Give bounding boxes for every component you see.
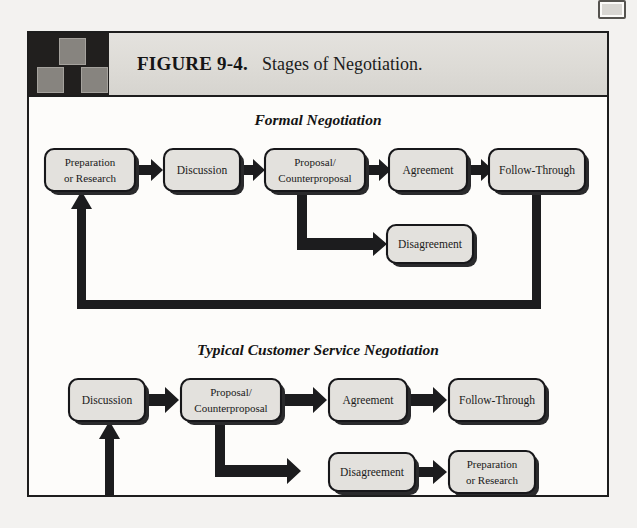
node-label: Disagreement bbox=[340, 466, 405, 479]
arrow-discussion-to-proposal bbox=[243, 159, 265, 181]
logo-square-right bbox=[81, 67, 108, 93]
arrow-prep-to-discussion bbox=[139, 159, 163, 181]
arrow-agreement-to-followthrough-2 bbox=[411, 387, 447, 413]
node-label: Proposal/ bbox=[210, 386, 253, 398]
node-label: Proposal/ bbox=[294, 156, 337, 168]
negotiation-flowchart: Formal Negotiation bbox=[29, 97, 607, 495]
section-formal-negotiation: Formal Negotiation bbox=[45, 111, 589, 313]
arrow-proposal-to-agreement bbox=[369, 159, 391, 181]
figure-header: FIGURE 9-4. Stages of Negotiation. bbox=[29, 33, 607, 97]
three-squares-logo bbox=[29, 33, 109, 95]
node-label: Counterproposal bbox=[194, 402, 267, 414]
section-title-typical: Typical Customer Service Negotiation bbox=[197, 341, 439, 358]
figure-body: Formal Negotiation bbox=[29, 97, 607, 495]
logo-square-top bbox=[59, 38, 86, 65]
logo-square-left bbox=[37, 67, 64, 93]
node-discussion-formal: Discussion bbox=[164, 149, 244, 195]
node-agreement-formal: Agreement bbox=[389, 149, 471, 195]
node-agreement-typical: Agreement bbox=[329, 379, 411, 425]
node-label: Agreement bbox=[342, 394, 394, 407]
node-label: Agreement bbox=[402, 164, 454, 177]
scanned-page: FIGURE 9-4. Stages of Negotiation. Forma… bbox=[0, 0, 637, 528]
arrow-disagreement-to-preparation bbox=[419, 460, 447, 484]
node-label: or Research bbox=[466, 474, 519, 486]
section-typical-customer-service-negotiation: Typical Customer Service Negotiation bbox=[69, 341, 549, 495]
node-proposal-counterproposal-formal: Proposal/ Counterproposal bbox=[265, 149, 369, 195]
node-follow-through-typical: Follow-Through bbox=[449, 379, 549, 425]
node-discussion-typical: Discussion bbox=[69, 379, 149, 425]
figure-number-label: FIGURE 9-4. bbox=[137, 53, 248, 75]
section-title-formal: Formal Negotiation bbox=[253, 111, 381, 128]
node-label: Discussion bbox=[177, 164, 228, 176]
scan-artifact-icon bbox=[598, 0, 626, 19]
node-label: Follow-Through bbox=[499, 164, 575, 177]
node-label: Follow-Through bbox=[459, 394, 535, 407]
node-label: Discussion bbox=[82, 394, 133, 406]
figure-caption: Stages of Negotiation. bbox=[262, 54, 422, 75]
arrow-proposal-to-agreement-2 bbox=[285, 387, 327, 413]
arrow-discussion-to-proposal-2 bbox=[149, 387, 179, 413]
elbow-proposal-to-disagreement-2 bbox=[215, 423, 301, 484]
node-label: Counterproposal bbox=[278, 172, 351, 184]
node-preparation-or-research-typical: Preparation or Research bbox=[449, 451, 539, 495]
node-follow-through-formal: Follow-Through bbox=[489, 149, 589, 195]
figure-title-bar: FIGURE 9-4. Stages of Negotiation. bbox=[109, 33, 607, 95]
node-proposal-counterproposal-typical: Proposal/ Counterproposal bbox=[181, 379, 285, 425]
node-preparation-or-research-formal: Preparation or Research bbox=[45, 149, 139, 195]
node-label: Disagreement bbox=[398, 238, 463, 251]
node-label: Preparation bbox=[467, 458, 518, 470]
node-disagreement-formal: Disagreement bbox=[387, 225, 477, 267]
figure-frame: FIGURE 9-4. Stages of Negotiation. Forma… bbox=[27, 31, 609, 497]
node-disagreement-typical: Disagreement bbox=[329, 453, 419, 495]
node-label: or Research bbox=[64, 172, 117, 184]
node-label: Preparation bbox=[65, 156, 116, 168]
feedback-loop-preparation-to-discussion bbox=[99, 421, 495, 495]
